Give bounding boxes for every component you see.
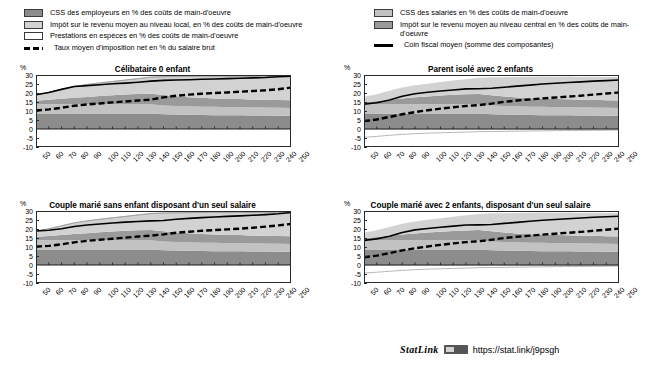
x-axis-label: 220	[587, 286, 600, 299]
x-axis-label: 120	[132, 150, 145, 163]
x-axis-label: 210	[246, 286, 259, 299]
legend-color-swatch	[24, 32, 43, 40]
y-axis-label: 0	[29, 126, 33, 133]
legend-item[interactable]: Impôt sur le revenu moyen au niveau cent…	[374, 20, 644, 39]
y-axis-tick	[364, 274, 367, 275]
x-axis-label: 230	[272, 286, 285, 299]
x-axis-label: 180	[208, 286, 221, 299]
legend-item[interactable]: CSS des employeurs en % des coûts de mai…	[24, 8, 344, 18]
x-axis-label: 90	[92, 150, 102, 160]
x-axis-label: 60	[382, 150, 392, 160]
x-axis-label: 110	[447, 286, 460, 299]
statlink-url[interactable]: https://stat.link/j9psgh	[473, 345, 560, 355]
y-axis-tick	[364, 238, 367, 239]
y-axis-label: 30	[353, 208, 361, 215]
chart-panel-couple-marie-2-enfants: %Couple marié avec 2 enfants, disposant …	[324, 200, 649, 332]
x-axis-label: 220	[259, 286, 272, 299]
y-axis-tick	[364, 283, 367, 284]
x-axis-label: 50	[369, 286, 379, 296]
x-axis-label: 80	[80, 286, 90, 296]
legend-item-label: Impôt sur le revenu moyen au niveau cent…	[400, 20, 644, 39]
x-axis-label: 160	[511, 286, 524, 299]
legend-column-right: CSS des salariés en % des coûts de main-…	[374, 8, 644, 52]
y-axis-tick	[364, 93, 367, 94]
y-axis-label: 15	[353, 235, 361, 242]
chart-legend: CSS des employeurs en % des coûts de mai…	[0, 8, 649, 64]
x-axis-label: 130	[144, 150, 157, 163]
x-axis-label: 100	[434, 286, 447, 299]
y-axis-label: 25	[353, 217, 361, 224]
x-axis-label: 50	[369, 150, 379, 160]
y-axis-label: 30	[353, 72, 361, 79]
x-axis-label: 250	[625, 150, 638, 163]
y-axis-tick	[36, 229, 39, 230]
x-axis-label: 130	[472, 150, 485, 163]
x-axis-label: 230	[600, 150, 613, 163]
x-axis-label: 190	[221, 286, 234, 299]
chart-panel-couple-marie-sans-enfant: %Couple marié sans enfant disposant d'un…	[0, 200, 324, 332]
legend-column-left: CSS des employeurs en % des coûts de mai…	[24, 8, 344, 54]
legend-color-swatch	[24, 21, 43, 29]
y-axis-tick	[36, 274, 39, 275]
x-axis-label: 80	[408, 150, 418, 160]
legend-item-label: Taux moyen d'imposition net en % du sala…	[50, 43, 215, 53]
x-axis-label: 120	[132, 286, 145, 299]
x-axis-label: 210	[246, 150, 259, 163]
y-axis-tick	[36, 75, 39, 76]
y-axis-label: -5	[355, 271, 361, 278]
y-axis-tick	[36, 247, 39, 248]
x-axis-label: 170	[195, 150, 208, 163]
x-axis-label: 230	[272, 150, 285, 163]
x-axis-label: 140	[485, 150, 498, 163]
x-axis-label: 150	[498, 286, 511, 299]
x-axis-label: 100	[106, 286, 119, 299]
y-axis-tick	[364, 229, 367, 230]
x-axis-label: 210	[574, 150, 587, 163]
x-axis-label: 110	[119, 150, 132, 163]
legend-item[interactable]: CSS des salariés en % des coûts de main-…	[374, 8, 644, 18]
legend-color-swatch	[374, 9, 393, 17]
y-axis-label: 0	[357, 126, 361, 133]
x-axis-label: 110	[447, 150, 460, 163]
x-axis-label: 250	[297, 286, 310, 299]
chart-panel-celibataire-0-enfant: %Célibataire 0 enfant302520151050-5-1050…	[0, 64, 324, 196]
spreadsheet-icon	[444, 345, 468, 354]
y-axis-tick	[364, 211, 367, 212]
legend-item-label: Coin fiscal moyen (somme des composantes…	[400, 40, 554, 50]
legend-item[interactable]: Coin fiscal moyen (somme des composantes…	[374, 40, 644, 50]
y-axis-label: 15	[25, 99, 33, 106]
panel-title: Parent isolé avec 2 enfants	[338, 65, 623, 74]
y-axis-tick	[36, 84, 39, 85]
y-axis-tick	[364, 138, 367, 139]
y-axis-tick	[36, 211, 39, 212]
plot-svg	[36, 211, 291, 283]
plot-area	[36, 75, 291, 147]
y-axis-label: -10	[23, 144, 33, 151]
legend-item-label: Impôt sur le revenu moyen au niveau loca…	[50, 20, 302, 30]
y-axis-tick	[36, 283, 39, 284]
x-axis-label: 200	[562, 286, 575, 299]
plot-svg	[36, 75, 291, 147]
y-axis-tick	[36, 238, 39, 239]
y-axis-label: 0	[357, 262, 361, 269]
y-axis-tick	[36, 138, 39, 139]
panel-title: Célibataire 0 enfant	[10, 65, 295, 74]
legend-dashed-line-icon	[24, 44, 43, 52]
x-axis-label: 210	[574, 286, 587, 299]
x-axis-label: 140	[157, 150, 170, 163]
x-axis-label: 240	[285, 150, 298, 163]
x-axis-label: 140	[157, 286, 170, 299]
y-axis-label: 10	[25, 244, 33, 251]
plot-area	[364, 211, 619, 283]
x-axis-label: 50	[41, 286, 51, 296]
y-axis-label: 25	[353, 81, 361, 88]
legend-solid-line-icon	[374, 41, 393, 49]
legend-item[interactable]: Taux moyen d'imposition net en % du sala…	[24, 43, 344, 53]
x-axis-label: 100	[106, 150, 119, 163]
area-band	[364, 129, 619, 137]
statlink-footer: StatLink https://stat.link/j9psgh	[400, 344, 559, 355]
legend-item[interactable]: Prestations en espèces en % des coûts de…	[24, 31, 344, 41]
legend-color-swatch	[24, 9, 43, 17]
legend-item[interactable]: Impôt sur le revenu moyen au niveau loca…	[24, 20, 344, 30]
y-axis-label: 10	[353, 108, 361, 115]
